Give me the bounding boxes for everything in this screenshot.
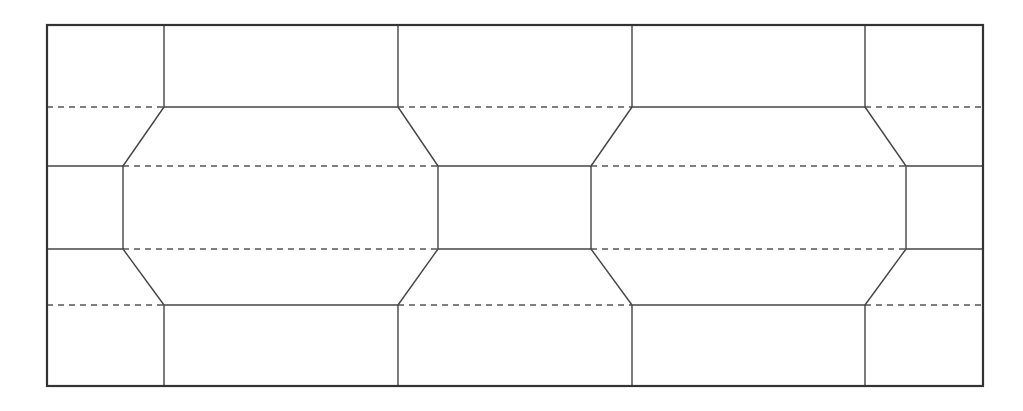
diagram-background — [0, 0, 1023, 411]
octagon-tiling-diagram — [0, 0, 1023, 411]
